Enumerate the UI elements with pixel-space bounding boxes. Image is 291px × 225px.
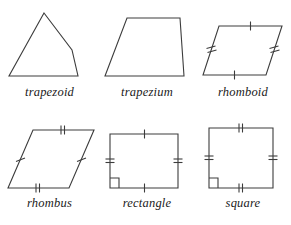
square-drawing bbox=[195, 116, 291, 196]
trapezoid-outline bbox=[9, 13, 78, 76]
rhomboid-tick-right-2 bbox=[271, 50, 280, 53]
shape-label-rectangle: rectangle bbox=[99, 196, 195, 211]
trapezium-drawing bbox=[99, 4, 195, 86]
rhomboid-tick-left-2 bbox=[208, 50, 217, 53]
quadrilateral-shapes-figure: trapezoid trapezium rhomboid bbox=[0, 0, 291, 225]
trapezium-outline bbox=[105, 18, 184, 76]
shape-cell-trapezoid bbox=[0, 4, 99, 86]
rhombus-outline bbox=[8, 130, 94, 188]
rhomboid-tick-left-1 bbox=[207, 46, 216, 49]
shape-cell-rhombus bbox=[0, 116, 99, 196]
rhombus-drawing bbox=[0, 116, 99, 196]
square-right-angle-marker bbox=[209, 178, 218, 188]
square-outline bbox=[209, 128, 273, 188]
shape-cell-rectangle bbox=[99, 116, 195, 196]
shape-label-rhombus: rhombus bbox=[0, 196, 99, 211]
rhomboid-tick-right-1 bbox=[270, 46, 279, 49]
shape-cell-square bbox=[195, 116, 291, 196]
shape-cell-trapezium bbox=[99, 4, 195, 86]
shape-label-rhomboid: rhomboid bbox=[195, 85, 291, 100]
shape-cell-rhomboid bbox=[195, 4, 291, 86]
shape-label-trapezium: trapezium bbox=[99, 85, 195, 100]
rectangle-right-angle-marker bbox=[110, 178, 119, 188]
rectangle-drawing bbox=[99, 116, 195, 196]
shape-label-trapezoid: trapezoid bbox=[0, 85, 99, 100]
rhomboid-drawing bbox=[195, 4, 291, 86]
trapezoid-drawing bbox=[0, 4, 99, 86]
rectangle-outline bbox=[110, 134, 178, 188]
shape-label-square: square bbox=[195, 196, 291, 211]
